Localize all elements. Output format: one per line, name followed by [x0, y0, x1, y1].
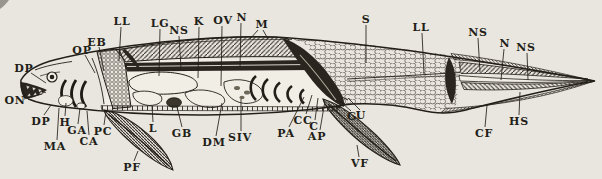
label-cf-34: CF [475, 127, 493, 140]
label-k-3: K [194, 15, 204, 28]
label-eb-16: EB [87, 36, 106, 49]
fish-anatomy-diagram: LLLGNSKOVNMSLLNSNNSDPONDPOPEBMAHGACAPCLG… [0, 0, 602, 179]
air-bladder-organ [129, 72, 197, 94]
label-ma-17: MA [44, 140, 66, 153]
label-ov-4: OV [213, 14, 233, 27]
label-dm-24: DM [202, 136, 225, 149]
label-m-6: M [256, 18, 269, 31]
leader-line-dp-14 [44, 105, 51, 115]
label-ap-30: AP [307, 130, 326, 143]
label-pa-27: PA [277, 127, 295, 140]
label-s-7: S [362, 13, 371, 26]
paper-corner-smudge [0, 0, 9, 9]
label-pc-21: PC [94, 125, 113, 138]
label-gb-23: GB [172, 127, 192, 140]
label-dp-14: DP [31, 115, 50, 128]
leader-line-pf-26 [134, 151, 138, 161]
label-lg-1: LG [151, 17, 170, 30]
label-hs-35: HS [509, 115, 529, 128]
label-on-13: ON [4, 94, 25, 107]
label-ll-0: LL [113, 15, 130, 28]
label-ns-2: NS [169, 24, 189, 37]
label-n-10: N [500, 37, 511, 50]
label-dp-12: DP [14, 62, 33, 75]
leader-line-ga-19 [78, 108, 80, 124]
label-siv-25: SIV [228, 131, 252, 144]
leader-line-cf-34 [485, 105, 487, 127]
label-pf-26: PF [123, 161, 141, 174]
label-ns-9: NS [468, 26, 488, 39]
label-n-5: N [237, 11, 248, 24]
label-ns-11: NS [516, 41, 536, 54]
label-u-32: U [356, 109, 366, 122]
label-ll-8: LL [412, 21, 429, 34]
label-vf-33: VF [350, 157, 369, 170]
leader-line-vf-33 [357, 145, 359, 157]
leader-line-ca-20 [87, 111, 89, 135]
figure-canvas: LLLGNSKOVNMSLLNSNNSDPONDPOPEBMAHGACAPCLG… [0, 0, 602, 179]
label-l-22: L [149, 122, 158, 135]
eye [47, 72, 57, 82]
